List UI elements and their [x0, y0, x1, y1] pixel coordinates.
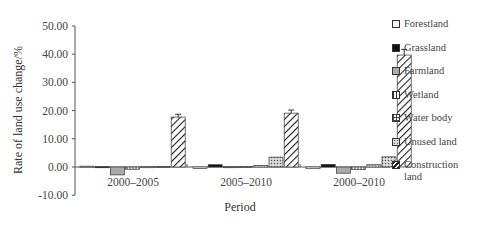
grid-swatch-icon: [392, 114, 400, 122]
x-tick-label: 2000–2005: [107, 176, 159, 188]
vertical-lines-swatch-icon: [392, 91, 400, 99]
x-tick-label: 2005–2010: [220, 176, 272, 188]
bar: [269, 157, 283, 167]
legend-item-forestland: Forestland: [392, 18, 489, 42]
y-tick-label: 10.00: [42, 133, 68, 145]
legend-item-water-body: Water body: [392, 112, 489, 136]
bar: [80, 166, 94, 167]
y-tick-label: 40.00: [42, 48, 68, 60]
legend-item-construction-land: Constructionland: [392, 159, 489, 183]
y-tick-label: 30.00: [42, 76, 68, 88]
y-tick-label: 20.00: [42, 105, 68, 117]
bar: [367, 165, 381, 167]
gray-swatch-icon: [392, 67, 400, 75]
y-tick-label: 50.00: [42, 20, 68, 32]
bar: [126, 167, 140, 169]
y-axis-title: Rate of land use change/%: [11, 46, 25, 174]
bar: [208, 165, 222, 167]
bar: [171, 117, 185, 167]
legend-item-grassland: Grassland: [392, 42, 489, 66]
legend-item-farmland: Farmland: [392, 65, 489, 89]
x-tick-label: 2000–2010: [333, 176, 385, 188]
y-tick-label: 0.00: [48, 161, 68, 173]
bar: [141, 167, 155, 168]
legend-item-unused-land: Unused land: [392, 136, 489, 160]
diagonal-swatch-icon: [392, 161, 400, 169]
bar: [223, 167, 237, 168]
legend: Forestland Grassland Farmland Wetland Wa…: [392, 18, 489, 183]
white-swatch-icon: [392, 20, 400, 28]
bar: [156, 166, 170, 167]
y-tick-labels: 50.0040.0030.0020.0010.000.00-10.00: [38, 20, 75, 201]
bars: [80, 49, 411, 174]
bar: [239, 166, 253, 167]
bar: [352, 167, 366, 170]
y-tick-label: -10.00: [38, 189, 68, 201]
bar: [95, 167, 109, 168]
x-axis-title: Period: [224, 200, 255, 214]
bar: [254, 166, 268, 167]
dotted-swatch-icon: [392, 138, 400, 146]
bar: [110, 167, 124, 175]
bar: [306, 167, 320, 169]
bar: [193, 167, 207, 168]
bar: [284, 113, 298, 167]
bar: [336, 167, 350, 173]
legend-item-wetland: Wetland: [392, 89, 489, 113]
bar: [321, 164, 335, 167]
black-swatch-icon: [392, 44, 400, 52]
